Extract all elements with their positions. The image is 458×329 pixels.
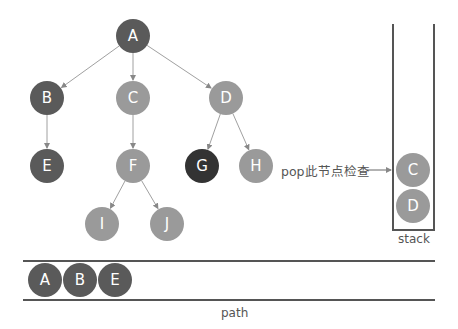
tree-node-j: J [150, 207, 184, 241]
tree-node-c: C [116, 81, 150, 115]
edge-F-I [110, 181, 125, 208]
tree-node-e: E [30, 149, 64, 183]
edge-A-B [62, 46, 120, 88]
tree-node-b: B [30, 81, 64, 115]
stack-item-d: D [396, 189, 430, 223]
path-item-a: A [28, 263, 62, 297]
edge-A-D [147, 45, 211, 88]
tree-node-d: D [209, 81, 243, 115]
edge-D-H [233, 114, 249, 150]
tree-node-i: I [85, 207, 119, 241]
tree-node-a: A [116, 19, 150, 53]
edge-D-G [208, 114, 220, 149]
stack-item-c: C [396, 153, 430, 187]
pop-annotation: pop此节点检查 [281, 161, 370, 180]
dfs-diagram: ABCDEFGHIJ pop此节点检查 CD stack ABE path [0, 0, 458, 329]
tree-node-h: H [239, 149, 273, 183]
tree-node-f: F [116, 149, 150, 183]
stack-label: stack [398, 232, 430, 246]
path-item-e: E [98, 263, 132, 297]
edge-F-J [142, 181, 158, 209]
path-item-b: B [63, 263, 97, 297]
path-label: path [221, 306, 248, 320]
tree-node-g: G [185, 149, 219, 183]
